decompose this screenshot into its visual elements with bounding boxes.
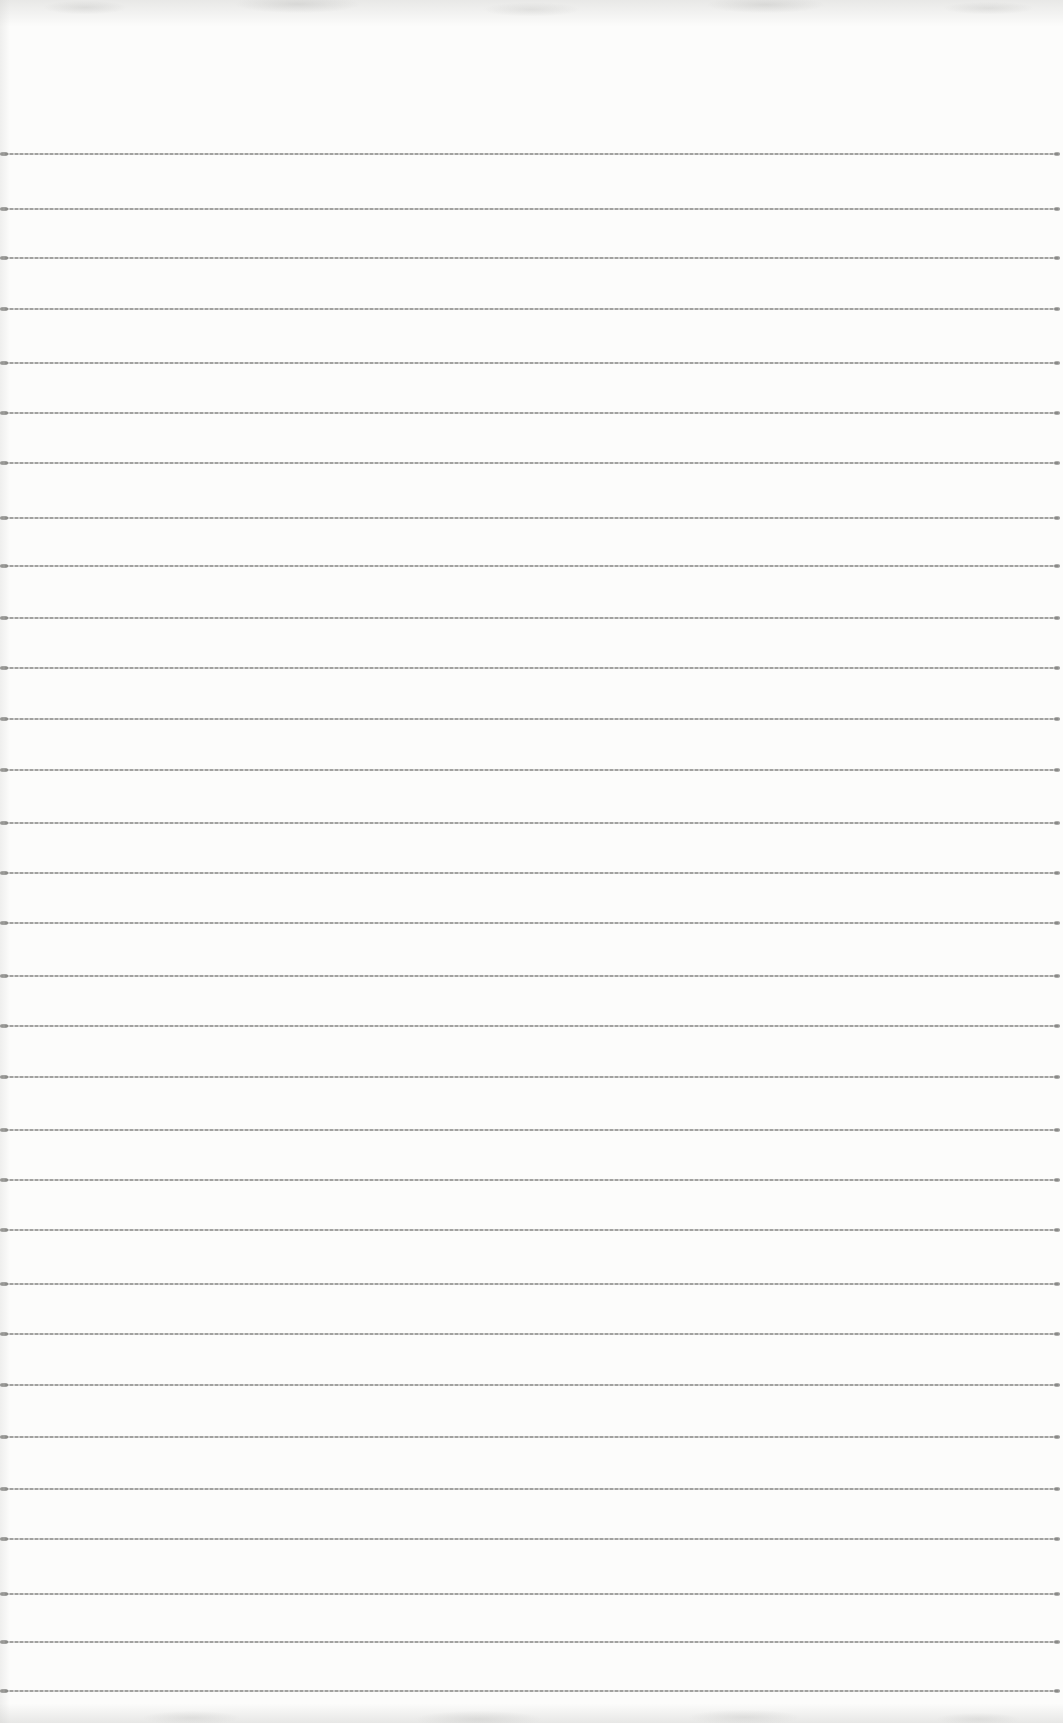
- ruled-line: [0, 1025, 1060, 1027]
- ruled-line: [0, 153, 1060, 155]
- ruled-line: [0, 462, 1060, 464]
- ruled-line: [0, 1436, 1060, 1438]
- ruled-line: [0, 975, 1060, 977]
- ruled-line: [0, 412, 1060, 414]
- ruled-line: [0, 822, 1060, 824]
- ruled-line: [0, 1488, 1060, 1490]
- ruled-line: [0, 1384, 1060, 1386]
- ruled-line: [0, 1593, 1060, 1595]
- ruled-line: [0, 1690, 1060, 1692]
- ruled-line: [0, 1333, 1060, 1335]
- ruled-line: [0, 1538, 1060, 1540]
- scan-noise-bottom-edge: [0, 1697, 1063, 1723]
- ruled-line: [0, 257, 1060, 259]
- ruled-line: [0, 667, 1060, 669]
- ruled-line: [0, 308, 1060, 310]
- ruled-line: [0, 1129, 1060, 1131]
- ruled-line: [0, 208, 1060, 210]
- scan-noise-top-edge: [0, 0, 1063, 34]
- ruled-line: [0, 565, 1060, 567]
- ruled-line: [0, 769, 1060, 771]
- ruled-line: [0, 922, 1060, 924]
- ruled-line: [0, 1179, 1060, 1181]
- ruled-line: [0, 1076, 1060, 1078]
- ruled-line: [0, 1283, 1060, 1285]
- ruled-line: [0, 362, 1060, 364]
- ruled-line: [0, 718, 1060, 720]
- ruled-line: [0, 517, 1060, 519]
- ruled-line: [0, 617, 1060, 619]
- ruled-line: [0, 1641, 1060, 1643]
- ruled-line: [0, 1229, 1060, 1231]
- ruled-line: [0, 872, 1060, 874]
- notebook-page: [0, 0, 1063, 1723]
